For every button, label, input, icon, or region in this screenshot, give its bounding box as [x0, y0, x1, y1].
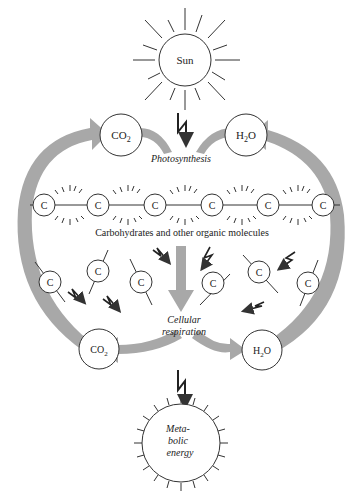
svg-text:C: C: [47, 277, 54, 288]
svg-text:C: C: [305, 278, 312, 289]
bolt-icon: [282, 252, 295, 267]
free-carbon-atom: C: [200, 272, 230, 305]
cellular-respiration-label: Cellularrespiration: [162, 314, 206, 337]
carbon-atom: C: [201, 194, 223, 216]
sun: Sun: [133, 8, 240, 110]
carbon-atom: C: [33, 194, 55, 216]
bolt-icon: [204, 247, 212, 266]
carbon-atom: C: [144, 194, 166, 216]
bolt-icon: [68, 289, 82, 300]
svg-text:C: C: [95, 200, 102, 211]
svg-text:C: C: [209, 200, 216, 211]
svg-text:C: C: [95, 266, 102, 277]
bolt-icon: [153, 248, 167, 260]
sun-label: Sun: [176, 54, 194, 66]
bolt-icon: [103, 296, 117, 308]
svg-text:C: C: [152, 200, 159, 211]
carbon-atom: C: [87, 194, 109, 216]
free-carbon-atom: C: [243, 255, 278, 293]
svg-text:C: C: [41, 200, 48, 211]
respiration-arrow-icon: [168, 246, 194, 312]
top-co2-node: CO2: [100, 114, 142, 156]
bottom-co2-node: CO2: [79, 329, 119, 369]
carbon-chain-caption: Carbohydrates and other organic molecule…: [95, 227, 269, 238]
free-carbon-atom: C: [130, 259, 152, 305]
bottom-h2o-node: H2O: [242, 330, 282, 370]
free-carbon-atom: C: [87, 250, 109, 294]
light-energy-arrow-icon: [178, 113, 186, 140]
svg-text:C: C: [265, 200, 272, 211]
carbon-atom: C: [257, 194, 279, 216]
svg-text:C: C: [138, 277, 145, 288]
co2-to-photosynthesis-arrow-icon: [140, 128, 172, 154]
photosynthesis-label: Photosynthesis: [150, 153, 211, 164]
carbon-chain: C C C C C C: [30, 185, 340, 225]
carbon-atom: C: [312, 194, 334, 216]
svg-text:C: C: [210, 278, 217, 289]
top-h2o-node: H2O: [225, 114, 267, 156]
bolt-icon: [247, 302, 264, 310]
svg-text:C: C: [256, 267, 263, 278]
svg-text:C: C: [320, 200, 327, 211]
carbon-cycle-diagram: Sun CO2 H2O Photosynthesis: [0, 0, 363, 500]
metabolic-energy: Meta-bolicenergy: [134, 395, 228, 491]
